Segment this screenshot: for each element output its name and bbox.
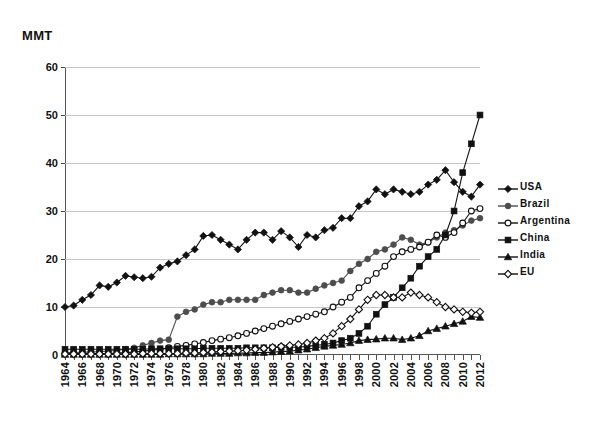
x-tick-mark	[411, 355, 412, 360]
x-tick-label: 2008	[439, 362, 451, 387]
legend-label: Argentina	[520, 215, 570, 226]
series-line	[65, 115, 480, 349]
x-tick-label: 2012	[474, 362, 486, 387]
filled-circle-icon	[497, 198, 519, 210]
legend-item-eu[interactable]: EU	[497, 263, 592, 280]
x-tick-mark	[385, 355, 386, 360]
x-tick-mark	[290, 355, 291, 360]
series-china	[62, 112, 483, 352]
x-tick-mark	[273, 355, 274, 360]
legend-item-china[interactable]: China	[497, 229, 592, 246]
x-tick-label: 1984	[232, 362, 244, 387]
x-tick-mark	[342, 355, 343, 360]
x-tick-label: 1978	[180, 362, 192, 387]
filled-triangle-icon	[497, 249, 519, 261]
x-tick-label: 1992	[301, 362, 313, 387]
x-tick-mark	[428, 355, 429, 360]
y-tick-label: 0	[52, 349, 58, 361]
x-tick-label: 1990	[284, 362, 296, 387]
x-tick-mark	[324, 355, 325, 360]
filled-diamond-icon	[497, 181, 519, 193]
legend-label: India	[520, 249, 545, 260]
x-tick-mark	[445, 355, 446, 360]
legend-label: Brazil	[520, 198, 550, 209]
legend: USABrazilArgentinaChinaIndiaEU	[497, 178, 592, 280]
x-tick-label: 1976	[163, 362, 175, 387]
x-tick-label: 1980	[197, 362, 209, 387]
x-tick-mark	[316, 355, 317, 360]
x-tick-mark	[255, 355, 256, 360]
x-tick-mark	[437, 355, 438, 360]
x-tick-label: 1968	[94, 362, 106, 387]
series-usa	[61, 167, 483, 311]
open-diamond-icon	[497, 266, 519, 278]
legend-label: EU	[520, 266, 535, 277]
x-tick-label: 1998	[353, 362, 365, 387]
x-tick-mark	[480, 355, 481, 360]
y-tick-label: 30	[46, 205, 58, 217]
x-tick-mark	[264, 355, 265, 360]
y-tick-label: 50	[46, 109, 58, 121]
x-tick-mark	[333, 355, 334, 360]
x-tick-label: 1970	[111, 362, 123, 387]
y-axis-unit-label: MMT	[22, 28, 53, 43]
series-lines	[65, 67, 480, 355]
x-tick-label: 2002	[388, 362, 400, 387]
legend-item-argentina[interactable]: Argentina	[497, 212, 592, 229]
plot-area: 0102030405060 19641966196819701972197419…	[65, 67, 480, 355]
x-tick-mark	[359, 355, 360, 360]
x-tick-mark	[402, 355, 403, 360]
x-tick-mark	[463, 355, 464, 360]
legend-label: USA	[520, 181, 542, 192]
open-circle-icon	[497, 215, 519, 227]
legend-item-india[interactable]: India	[497, 246, 592, 263]
filled-square-icon	[497, 232, 519, 244]
x-tick-label: 1994	[318, 362, 330, 387]
x-tick-label: 2000	[370, 362, 382, 387]
y-tick-label: 20	[46, 253, 58, 265]
x-tick-label: 1974	[145, 362, 157, 387]
chart-container: MMT 0102030405060 1964196619681970197219…	[0, 0, 595, 423]
x-tick-label: 1982	[215, 362, 227, 387]
x-tick-mark	[454, 355, 455, 360]
y-tick-label: 10	[46, 301, 58, 313]
legend-item-brazil[interactable]: Brazil	[497, 195, 592, 212]
x-tick-label: 2010	[457, 362, 469, 387]
y-tick-label: 60	[46, 61, 58, 73]
y-tick-label: 40	[46, 157, 58, 169]
x-tick-label: 1964	[59, 362, 71, 387]
legend-label: China	[520, 232, 550, 243]
x-tick-mark	[376, 355, 377, 360]
x-tick-label: 1966	[76, 362, 88, 387]
x-tick-label: 1996	[336, 362, 348, 387]
x-tick-mark	[471, 355, 472, 360]
x-tick-mark	[298, 355, 299, 360]
series-line	[65, 209, 480, 354]
x-tick-label: 2006	[422, 362, 434, 387]
legend-item-usa[interactable]: USA	[497, 178, 592, 195]
x-tick-label: 1988	[267, 362, 279, 387]
x-tick-label: 1972	[128, 362, 140, 387]
x-tick-mark	[350, 355, 351, 360]
x-tick-label: 2004	[405, 362, 417, 387]
x-tick-mark	[419, 355, 420, 360]
x-tick-mark	[368, 355, 369, 360]
x-tick-label: 1986	[249, 362, 261, 387]
x-tick-mark	[394, 355, 395, 360]
x-tick-mark	[307, 355, 308, 360]
x-tick-mark	[281, 355, 282, 360]
